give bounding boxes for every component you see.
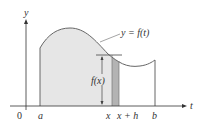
t-axis-arrow-icon bbox=[182, 104, 187, 108]
y-axis-label: y bbox=[23, 7, 29, 18]
tick-a: a bbox=[38, 110, 43, 121]
t-axis-label: t bbox=[190, 100, 193, 111]
tick-b: b bbox=[152, 110, 157, 121]
curve-label-leader bbox=[100, 34, 120, 42]
curve-label: y = f(t) bbox=[120, 27, 150, 39]
shaded-area-region bbox=[40, 28, 155, 106]
height-label: f(x) bbox=[91, 75, 106, 87]
ftc-diagram: f(x) y = f(t) y t 0 a x x + h b bbox=[0, 0, 200, 124]
y-axis-arrow-icon bbox=[24, 19, 28, 24]
origin-label: 0 bbox=[17, 110, 22, 121]
tick-x-plus-h: x + h bbox=[116, 110, 138, 121]
tick-x: x bbox=[105, 110, 111, 121]
